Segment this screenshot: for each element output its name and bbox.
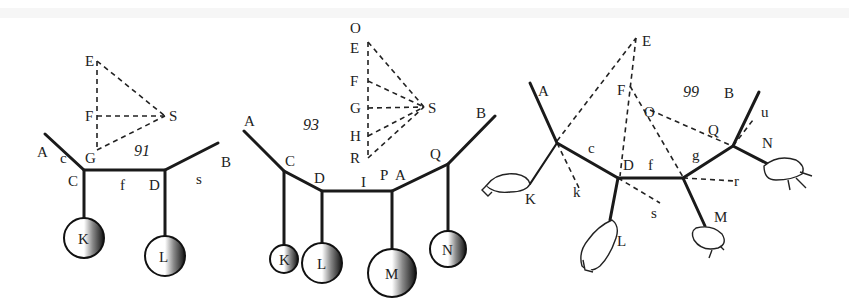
- figure-99: E A F O 99 B u Q N c D f g r k s K L M: [482, 33, 812, 272]
- hand-k-icon: [482, 174, 530, 196]
- point-label: c: [60, 150, 67, 166]
- point-label: k: [573, 184, 581, 200]
- point-label: f: [648, 157, 653, 173]
- point-label: S: [169, 108, 177, 124]
- hand-label: L: [617, 233, 626, 249]
- point-label: B: [476, 105, 486, 121]
- figure-93: K L M N O E F G H R S A 93 C D I P A Q B: [244, 20, 495, 297]
- point-label: g: [692, 147, 700, 163]
- point-label: s: [196, 171, 202, 187]
- point-label: Q: [430, 146, 441, 162]
- weight-label: L: [317, 256, 326, 272]
- hand-label: M: [714, 209, 727, 225]
- bleed-through-text: [0, 8, 849, 18]
- point-label: F: [85, 108, 93, 124]
- point-label: G: [350, 100, 361, 116]
- hand-m-icon: [692, 227, 724, 258]
- weight-label: L: [159, 249, 168, 265]
- point-label: Q: [708, 122, 719, 138]
- point-label: R: [350, 150, 360, 166]
- point-label: E: [642, 33, 651, 49]
- point-label: C: [285, 153, 295, 169]
- point-label: O: [644, 104, 655, 120]
- point-label: B: [724, 85, 734, 101]
- point-label: H: [350, 128, 361, 144]
- point-label: D: [149, 177, 160, 193]
- point-label: I: [361, 174, 366, 190]
- point-label: E: [85, 53, 94, 69]
- weight-label: K: [279, 252, 290, 268]
- point-label: D: [314, 170, 325, 186]
- diagram-stage: K L E F S G A c C 91 f D s B K L: [0, 0, 849, 307]
- point-label: F: [350, 73, 358, 89]
- point-label: E: [350, 40, 359, 56]
- point-label: c: [588, 140, 595, 156]
- mechanics-diagram: K L E F S G A c C 91 f D s B K L: [0, 0, 849, 307]
- point-label: N: [762, 135, 773, 151]
- point-label: A: [244, 113, 255, 129]
- point-label: s: [651, 205, 657, 221]
- figure-number: 91: [134, 142, 150, 159]
- point-label: C: [68, 173, 78, 189]
- figure-number: 99: [683, 83, 699, 100]
- point-label: A: [37, 144, 48, 160]
- point-label: f: [120, 177, 125, 193]
- point-label: G: [85, 150, 96, 166]
- weight-label: M: [385, 266, 398, 282]
- point-label: O: [350, 20, 361, 36]
- hand-l-icon: [581, 220, 617, 272]
- figure-number: 93: [303, 116, 319, 133]
- point-label: D: [623, 157, 634, 173]
- figure-91: K L E F S G A c C 91 f D s B: [37, 53, 231, 276]
- point-label: F: [617, 82, 625, 98]
- point-label: u: [761, 104, 769, 120]
- point-label: S: [428, 100, 436, 116]
- point-label: P: [380, 167, 388, 183]
- point-label: A: [538, 83, 549, 99]
- hand-n-icon: [764, 158, 812, 190]
- weight-label: N: [442, 242, 453, 258]
- hand-label: K: [525, 191, 536, 207]
- point-label: A: [395, 167, 406, 183]
- point-label: r: [734, 173, 739, 189]
- point-label: B: [221, 154, 231, 170]
- weight-label: K: [78, 231, 89, 247]
